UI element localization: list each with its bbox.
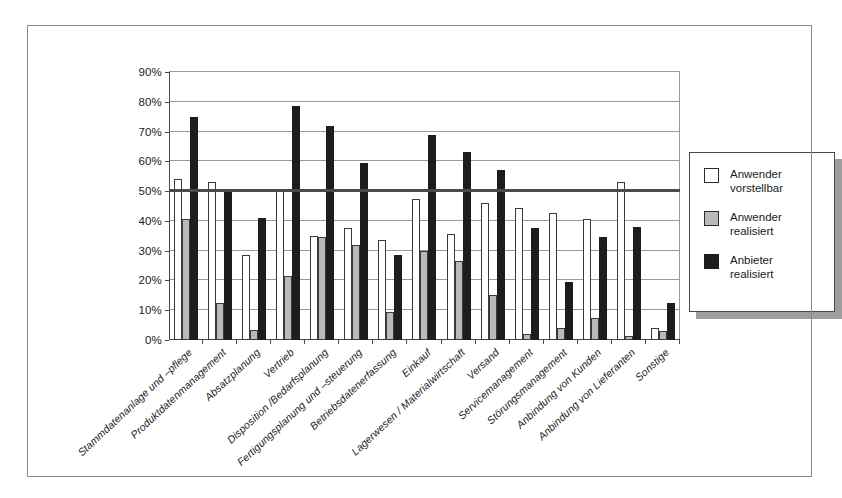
y-tick-label: 0% <box>145 334 162 346</box>
y-tick-label: 10% <box>138 304 162 316</box>
y-tick-label: 70% <box>138 126 162 138</box>
y-tick-label: 60% <box>138 155 162 167</box>
bar[interactable] <box>625 336 633 340</box>
bar[interactable] <box>344 228 352 340</box>
bar[interactable] <box>523 334 531 340</box>
y-tick-label: 40% <box>138 215 162 227</box>
bar[interactable] <box>174 179 182 340</box>
bar[interactable] <box>531 228 539 340</box>
bar-group <box>203 72 237 340</box>
x-axis-label: Fertigungsplanung und –steuerung <box>235 346 365 468</box>
bar[interactable] <box>182 219 190 340</box>
bar-group <box>305 72 339 340</box>
bar-group <box>612 72 646 340</box>
bar-groups <box>169 72 680 340</box>
x-axis-label: Sonstige <box>632 346 671 383</box>
bar[interactable] <box>250 330 258 340</box>
bar[interactable] <box>489 295 497 340</box>
fifty-percent-reference-line <box>169 189 680 192</box>
bar[interactable] <box>497 170 505 340</box>
y-tick-label: 90% <box>138 66 162 78</box>
bar[interactable] <box>659 331 667 340</box>
bar-group <box>646 72 680 340</box>
bar[interactable] <box>651 328 659 340</box>
bar[interactable] <box>378 240 386 340</box>
legend-item-label: Anbieterrealisiert <box>730 253 773 281</box>
legend-item[interactable]: Anwendervorstellbar <box>704 167 834 195</box>
bar-group <box>339 72 373 340</box>
bar[interactable] <box>667 303 675 340</box>
bar[interactable] <box>463 152 471 340</box>
y-tick-label: 50% <box>138 185 162 197</box>
bar[interactable] <box>258 218 266 340</box>
bar[interactable] <box>326 126 334 340</box>
bar[interactable] <box>284 276 292 340</box>
bar[interactable] <box>591 318 599 340</box>
bar[interactable] <box>412 199 420 340</box>
bar[interactable] <box>394 255 402 340</box>
bar[interactable] <box>617 182 625 340</box>
bar-group <box>373 72 407 340</box>
bar[interactable] <box>633 227 641 340</box>
bar[interactable] <box>583 219 591 340</box>
bar[interactable] <box>515 208 523 341</box>
bar[interactable] <box>386 312 394 340</box>
bar[interactable] <box>352 245 360 340</box>
bar-group <box>271 72 305 340</box>
bar-group <box>578 72 612 340</box>
y-tick-label: 30% <box>138 245 162 257</box>
bar-group <box>442 72 476 340</box>
bar[interactable] <box>428 135 436 340</box>
bar[interactable] <box>481 203 489 340</box>
plot-area: 0%10%20%30%40%50%60%70%80%90% <box>169 72 680 340</box>
y-tick-label: 80% <box>138 96 162 108</box>
bar[interactable] <box>190 117 198 340</box>
bar-group <box>407 72 441 340</box>
bar-group <box>237 72 271 340</box>
bar[interactable] <box>318 237 326 340</box>
bar[interactable] <box>447 234 455 340</box>
bar[interactable] <box>216 303 224 340</box>
gray-square-icon <box>704 211 719 226</box>
y-tick-mark <box>165 340 169 341</box>
black-square-icon <box>704 254 719 269</box>
legend-item-label: Anwenderrealisiert <box>730 210 782 238</box>
chart-legend: AnwendervorstellbarAnwenderrealisiertAnb… <box>689 152 835 312</box>
bar[interactable] <box>455 261 463 340</box>
legend-item[interactable]: Anwenderrealisiert <box>704 210 834 238</box>
bar-group <box>476 72 510 340</box>
legend-item[interactable]: Anbieterrealisiert <box>704 253 834 281</box>
bar-group <box>510 72 544 340</box>
white-square-icon <box>704 168 719 183</box>
bar-group <box>169 72 203 340</box>
chart-frame: 0%10%20%30%40%50%60%70%80%90% Stammdaten… <box>27 25 812 477</box>
bar[interactable] <box>565 282 573 340</box>
bar[interactable] <box>292 106 300 340</box>
bar-group <box>544 72 578 340</box>
bar[interactable] <box>208 182 216 340</box>
bar[interactable] <box>420 251 428 340</box>
bar[interactable] <box>549 213 557 340</box>
bar[interactable] <box>557 328 565 340</box>
bar[interactable] <box>224 191 232 340</box>
bar[interactable] <box>276 191 284 340</box>
legend-item-label: Anwendervorstellbar <box>730 167 783 195</box>
bar[interactable] <box>310 236 318 340</box>
y-tick-label: 20% <box>138 274 162 286</box>
bar[interactable] <box>242 255 250 340</box>
bar[interactable] <box>599 237 607 340</box>
